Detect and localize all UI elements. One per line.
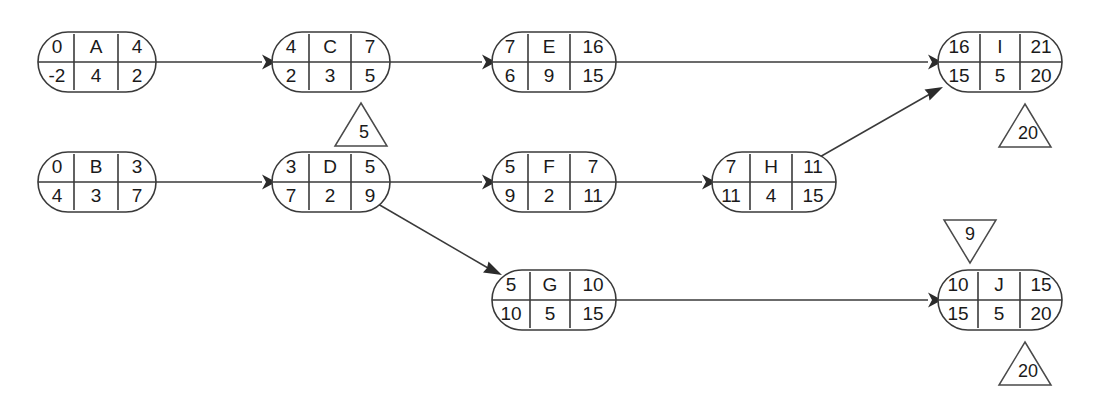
node-f-early-finish: 7	[588, 156, 599, 177]
node-d-duration: 2	[325, 185, 336, 206]
node-c-late-start: 2	[286, 65, 297, 86]
node-a-early-finish: 4	[132, 36, 143, 57]
milestone-marker-j-bottom[interactable]: 20	[999, 342, 1051, 385]
node-c-early-start: 4	[286, 36, 297, 57]
node-i-label: I	[997, 36, 1002, 57]
node-d-late-start: 7	[286, 185, 297, 206]
node-d[interactable]: 3 D 5 7 2 9	[272, 152, 390, 212]
node-h-label: H	[764, 156, 778, 177]
node-b-label: B	[90, 156, 103, 177]
node-g[interactable]: 5 G 10 10 5 15	[492, 270, 616, 330]
node-i-early-start: 16	[948, 36, 969, 57]
node-i[interactable]: 16 I 21 15 5 20	[938, 32, 1062, 92]
node-f-late-finish: 11	[583, 185, 603, 206]
milestone-i-value: 20	[1018, 123, 1038, 143]
node-c-duration: 3	[325, 65, 336, 86]
node-c[interactable]: 4 C 7 2 3 5	[272, 32, 390, 92]
node-c-late-finish: 5	[365, 65, 376, 86]
node-h-late-start: 11	[721, 185, 741, 206]
edge-e-to-i	[616, 55, 942, 70]
node-j-late-start: 15	[947, 303, 968, 324]
node-g-label: G	[543, 274, 558, 295]
node-j-late-finish: 20	[1030, 303, 1051, 324]
node-h[interactable]: 7 H 11 11 4 15	[712, 152, 836, 212]
node-a-label: A	[90, 36, 103, 57]
node-a-early-start: 0	[52, 36, 63, 57]
node-f-duration: 2	[544, 185, 555, 206]
milestone-c-value: 5	[359, 122, 369, 142]
node-j-early-start: 10	[947, 274, 968, 295]
milestone-marker-i[interactable]: 20	[999, 104, 1051, 147]
milestone-j-top-value: 9	[965, 224, 975, 244]
node-i-early-finish: 21	[1030, 36, 1051, 57]
node-f[interactable]: 5 F 7 9 2 11	[492, 152, 616, 212]
node-g-duration: 5	[545, 303, 556, 324]
milestone-marker-c[interactable]: 5	[335, 103, 387, 146]
node-e-late-finish: 15	[582, 65, 603, 86]
edge-a-to-c	[156, 55, 276, 70]
node-b-late-finish: 7	[132, 185, 143, 206]
network-diagram-svg: 0 A 4 -2 4 2 4 C 7 2 3 5 7 E	[0, 0, 1097, 402]
edge-d-to-f	[390, 175, 496, 190]
node-a-late-start: -2	[49, 65, 66, 86]
arrowhead-icon	[483, 262, 502, 276]
node-b[interactable]: 0 B 3 4 3 7	[38, 152, 156, 212]
node-e-early-finish: 16	[582, 36, 603, 57]
network-diagram-canvas: 0 A 4 -2 4 2 4 C 7 2 3 5 7 E	[0, 0, 1097, 402]
node-a-duration: 4	[91, 65, 102, 86]
node-i-late-start: 15	[948, 65, 969, 86]
node-h-late-finish: 15	[802, 185, 823, 206]
edge-h-to-i	[818, 87, 943, 158]
node-e[interactable]: 7 E 16 6 9 15	[492, 32, 616, 92]
node-g-early-start: 5	[506, 274, 517, 295]
node-b-late-start: 4	[52, 185, 63, 206]
node-f-late-start: 9	[505, 185, 516, 206]
node-j-duration: 5	[994, 303, 1005, 324]
node-h-early-finish: 11	[803, 156, 823, 177]
node-b-early-finish: 3	[132, 156, 143, 177]
node-g-late-finish: 15	[582, 303, 603, 324]
node-d-label: D	[323, 156, 337, 177]
node-d-late-finish: 9	[365, 185, 376, 206]
node-e-early-start: 7	[505, 36, 516, 57]
node-i-late-finish: 20	[1030, 65, 1051, 86]
node-g-late-start: 10	[500, 303, 521, 324]
arrowhead-icon	[925, 87, 944, 101]
node-a[interactable]: 0 A 4 -2 4 2	[38, 32, 156, 92]
node-d-early-finish: 5	[365, 156, 376, 177]
node-e-duration: 9	[544, 65, 555, 86]
node-h-early-start: 7	[726, 156, 737, 177]
edge-c-to-e	[390, 55, 496, 70]
node-d-early-start: 3	[286, 156, 297, 177]
node-c-early-finish: 7	[365, 36, 376, 57]
node-a-late-finish: 2	[132, 65, 143, 86]
node-c-label: C	[323, 36, 337, 57]
edge-d-to-g	[378, 204, 502, 275]
edge-g-to-j	[616, 293, 942, 308]
node-f-early-start: 5	[505, 156, 516, 177]
node-h-duration: 4	[766, 185, 777, 206]
node-j-early-finish: 15	[1030, 274, 1051, 295]
node-g-early-finish: 10	[582, 274, 603, 295]
node-b-early-start: 0	[52, 156, 63, 177]
node-e-label: E	[543, 36, 556, 57]
node-e-late-start: 6	[505, 65, 516, 86]
node-f-label: F	[543, 156, 555, 177]
edge-f-to-h	[616, 175, 716, 190]
milestone-marker-j-top[interactable]: 9	[944, 220, 996, 263]
edge-b-to-d	[156, 175, 276, 190]
node-j[interactable]: 10 J 15 15 5 20	[938, 270, 1062, 330]
node-i-duration: 5	[995, 65, 1006, 86]
milestone-j-bottom-value: 20	[1018, 361, 1038, 381]
node-b-duration: 3	[91, 185, 102, 206]
node-j-label: J	[994, 274, 1004, 295]
